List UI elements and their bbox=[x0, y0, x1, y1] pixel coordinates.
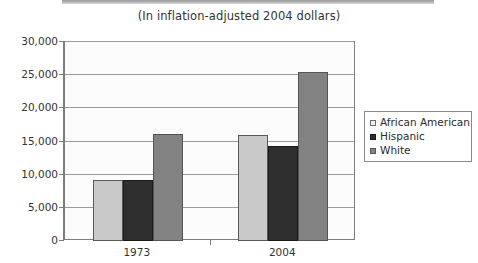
legend-item[interactable]: African American bbox=[370, 116, 467, 129]
chart-title: (In inflation-adjusted 2004 dollars) bbox=[0, 9, 478, 23]
bar bbox=[123, 180, 153, 241]
plot-area bbox=[64, 41, 355, 240]
y-axis-tick-label: 30,000 bbox=[2, 35, 58, 47]
legend-item-label: African American bbox=[380, 117, 470, 128]
x-axis-tick-label: 2004 bbox=[242, 246, 322, 258]
gridline bbox=[65, 41, 354, 42]
bar bbox=[268, 146, 298, 241]
y-axis-tick-label: 20,000 bbox=[2, 101, 58, 113]
bar bbox=[298, 72, 328, 241]
y-axis-tick-label: 0 bbox=[2, 234, 58, 246]
y-axis-tick-label: 5,000 bbox=[2, 201, 58, 213]
y-axis-tick bbox=[59, 240, 64, 241]
page-scan-artifact-strip bbox=[62, 0, 434, 4]
y-axis-tick-label-wrap: 30,000 bbox=[0, 35, 58, 47]
legend-swatch-african-american-icon bbox=[370, 120, 376, 126]
legend-swatch-hispanic-icon bbox=[370, 134, 376, 140]
bar bbox=[238, 135, 268, 241]
legend-item-label: Hispanic bbox=[380, 131, 425, 142]
chart-legend: African AmericanHispanicWhite bbox=[364, 111, 472, 162]
bar bbox=[153, 134, 183, 241]
legend-swatch-white-icon bbox=[370, 148, 376, 154]
legend-item[interactable]: White bbox=[370, 144, 467, 157]
y-axis-tick-label: 25,000 bbox=[2, 68, 58, 80]
y-axis-tick-label: 10,000 bbox=[2, 168, 58, 180]
bar bbox=[93, 180, 123, 241]
y-axis-tick-label-wrap: 5,000 bbox=[0, 201, 58, 213]
y-axis-tick-label-wrap: 0 bbox=[0, 234, 58, 246]
y-axis-tick-label-wrap: 25,000 bbox=[0, 68, 58, 80]
x-axis-tick-label: 1973 bbox=[97, 246, 177, 258]
y-axis-tick-label: 15,000 bbox=[2, 135, 58, 147]
y-axis-tick-label-wrap: 20,000 bbox=[0, 101, 58, 113]
y-axis-tick-label-wrap: 10,000 bbox=[0, 168, 58, 180]
x-axis-tick bbox=[210, 240, 211, 245]
legend-item-label: White bbox=[380, 145, 411, 156]
y-axis-tick-label-wrap: 15,000 bbox=[0, 135, 58, 147]
legend-item[interactable]: Hispanic bbox=[370, 130, 467, 143]
